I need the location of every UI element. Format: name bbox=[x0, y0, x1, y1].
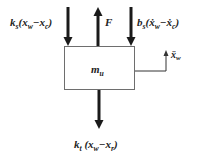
damper-force-arrow bbox=[127, 7, 136, 46]
tire-force-arrow bbox=[95, 90, 104, 129]
paren-close: ) bbox=[48, 16, 52, 28]
damper-force-label: bs(ẋw−ẋc) bbox=[137, 17, 179, 28]
spring-force-arrow bbox=[64, 7, 73, 46]
paren-close: ) bbox=[175, 16, 179, 28]
acceleration-label: ẍw bbox=[171, 50, 181, 60]
tire-force-label: kt (xw−xr) bbox=[74, 139, 118, 150]
free-body-diagram: mu ks(xw−xc) F bs(ẋw−ẋc) ẍw kt (xw−xr) bbox=[0, 0, 197, 160]
actuator-force-label: F bbox=[105, 17, 112, 28]
paren-close: ) bbox=[114, 138, 118, 150]
tire-coef-sub: t bbox=[80, 144, 82, 153]
mass-symbol: m bbox=[91, 63, 100, 75]
acceleration-subscript: w bbox=[176, 54, 181, 62]
actuator-symbol: F bbox=[105, 16, 112, 28]
actuator-force-arrow bbox=[94, 7, 103, 46]
mass-subscript: u bbox=[100, 69, 104, 78]
mass-label: mu bbox=[91, 64, 104, 75]
acceleration-arrow bbox=[135, 50, 169, 71]
spring-force-label: ks(xw−xc) bbox=[10, 17, 52, 28]
